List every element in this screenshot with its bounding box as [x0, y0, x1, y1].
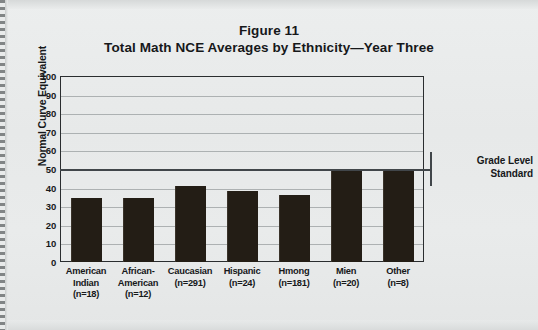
x-label-line: Indian [60, 278, 112, 290]
bar-african-american [123, 198, 154, 262]
x-label-line: (n=24) [216, 278, 268, 290]
x-label-line: American [112, 278, 164, 290]
x-label-line: (n=291) [164, 278, 216, 290]
x-category-hmong: Hmong(n=181) [268, 266, 320, 289]
y-tick-label-0: 0 [22, 257, 56, 268]
grade-level-standard-label: Grade Level Standard [433, 154, 533, 180]
figure-number: Figure 11 [0, 22, 538, 39]
x-label-line: Caucasian [164, 266, 216, 278]
x-label-line: (n=12) [112, 289, 164, 301]
y-tick-label-50: 50 [22, 164, 56, 175]
y-tick-label-30: 30 [22, 201, 56, 212]
bar-mien [331, 171, 362, 262]
x-label-line: Other [372, 266, 424, 278]
y-tick-label-20: 20 [22, 219, 56, 230]
x-label-line: (n=181) [268, 278, 320, 290]
x-category-american-indian: AmericanIndian(n=18) [60, 266, 112, 301]
x-category-hispanic: Hispanic(n=24) [216, 266, 268, 289]
page-title: Total Math NCE Averages by Ethnicity—Yea… [0, 39, 538, 57]
x-category-mien: Mien(n=20) [320, 266, 372, 289]
y-tick-label-40: 40 [22, 182, 56, 193]
x-label-line: (n=20) [320, 278, 372, 290]
x-label-line: Hmong [268, 266, 320, 278]
chart-title-block: Figure 11 Total Math NCE Averages by Eth… [0, 22, 538, 57]
x-category-caucasian: Caucasian(n=291) [164, 266, 216, 289]
x-label-line: American [60, 266, 112, 278]
bar-hispanic [227, 191, 258, 262]
y-tick-label-60: 60 [22, 145, 56, 156]
x-label-line: (n=18) [60, 289, 112, 301]
y-axis-tick-labels: 1009080706050403020100 [22, 76, 56, 262]
page-top-edge [8, 0, 538, 9]
grade-level-standard-tick [430, 152, 432, 186]
x-axis-category-labels: AmericanIndian(n=18)African-American(n=1… [60, 266, 424, 322]
x-category-african-american: African-American(n=12) [112, 266, 164, 301]
standard-label-line1: Grade Level [433, 154, 533, 167]
y-tick-label-90: 90 [22, 89, 56, 100]
bar-caucasian [175, 186, 206, 262]
x-label-line: Hispanic [216, 266, 268, 278]
y-tick-label-70: 70 [22, 126, 56, 137]
x-label-line: (n=8) [372, 278, 424, 290]
standard-label-line2: Standard [433, 167, 533, 180]
x-label-line: African- [112, 266, 164, 278]
y-tick-label-80: 80 [22, 108, 56, 119]
grade-level-standard-line [60, 169, 430, 171]
x-label-line: Mien [320, 266, 372, 278]
y-tick-label-100: 100 [22, 71, 56, 82]
bar-american-indian [71, 198, 102, 262]
figure-page: Figure 11 Total Math NCE Averages by Eth… [0, 0, 538, 330]
bar-other [383, 169, 414, 262]
x-category-other: Other(n=8) [372, 266, 424, 289]
bar-hmong [279, 195, 310, 262]
y-tick-label-10: 10 [22, 238, 56, 249]
